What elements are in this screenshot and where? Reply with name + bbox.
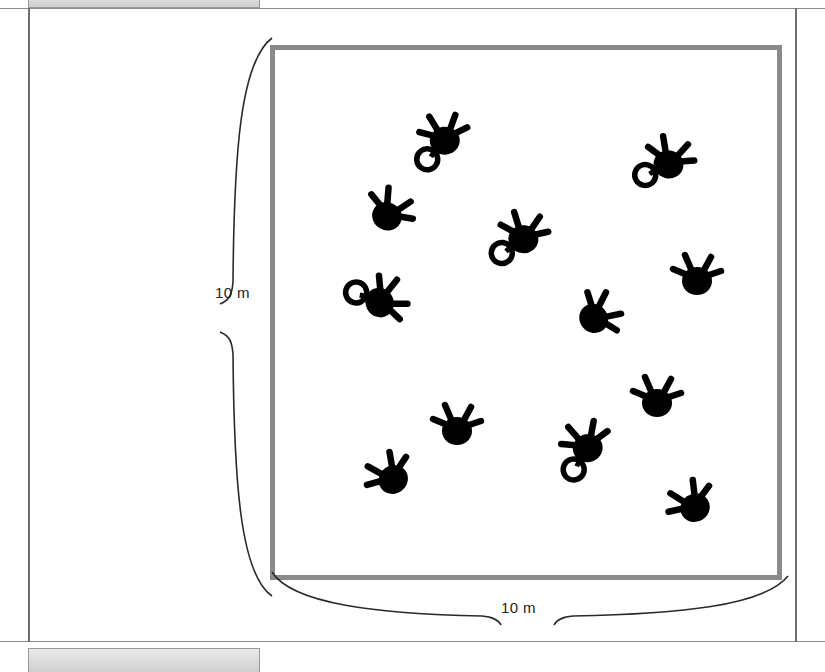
page-border-right bbox=[795, 8, 797, 642]
quadrat-box bbox=[270, 45, 782, 580]
page-rule-bottom bbox=[0, 641, 825, 642]
dimension-label-left: 10 m bbox=[215, 284, 250, 301]
dimension-label-bottom: 10 m bbox=[501, 599, 536, 616]
page-rule-top bbox=[0, 8, 825, 9]
caption-strip-top bbox=[28, 0, 260, 8]
caption-strip-bottom bbox=[28, 648, 260, 672]
page-border-left bbox=[28, 8, 30, 642]
